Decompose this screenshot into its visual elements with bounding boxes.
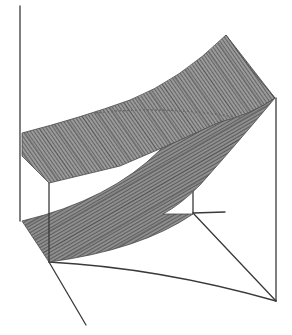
floor-right-diagonal <box>193 213 276 301</box>
floor-left-diagonal <box>49 262 86 325</box>
surface-plot <box>0 0 292 335</box>
floor-stub-line <box>193 212 225 213</box>
floor-front-curve <box>49 262 276 301</box>
